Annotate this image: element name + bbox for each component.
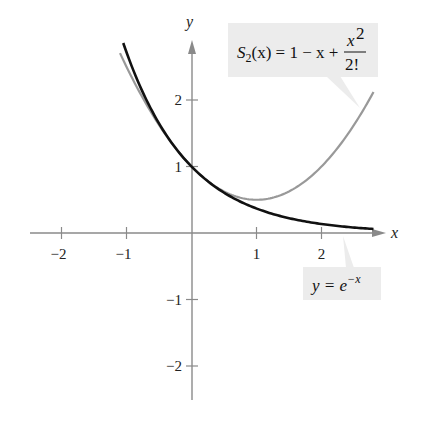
svg-text:2: 2 (356, 24, 365, 43)
y-tick-label: −2 (166, 358, 182, 374)
x-tick-label: −2 (51, 246, 67, 262)
y-axis-label: y (184, 13, 194, 31)
x-tick-label: −1 (116, 246, 132, 262)
x-axis-arrow-icon (372, 229, 386, 237)
x-axis-label: x (390, 224, 398, 241)
y-axis (188, 40, 196, 400)
s2-callout-pointer (326, 76, 360, 108)
y-tick-label: −1 (166, 292, 182, 308)
svg-text:2!: 2! (345, 55, 359, 74)
chart: −2−112 −2−112 x y S2(x) = 1 − x + x 2 2!… (0, 0, 421, 426)
x-tick-label: 1 (253, 246, 261, 262)
svg-text:x: x (346, 31, 355, 50)
exp-callout-pointer (343, 236, 354, 268)
y-tick-label: 2 (175, 92, 183, 108)
y-tick-label: 1 (175, 159, 183, 175)
y-axis-arrow-icon (188, 40, 196, 54)
svg-text:S2(x) = 1 − x +: S2(x) = 1 − x + (237, 43, 338, 65)
x-ticks: −2−112 (51, 227, 326, 262)
x-axis (30, 229, 386, 237)
x-tick-label: 2 (318, 246, 326, 262)
